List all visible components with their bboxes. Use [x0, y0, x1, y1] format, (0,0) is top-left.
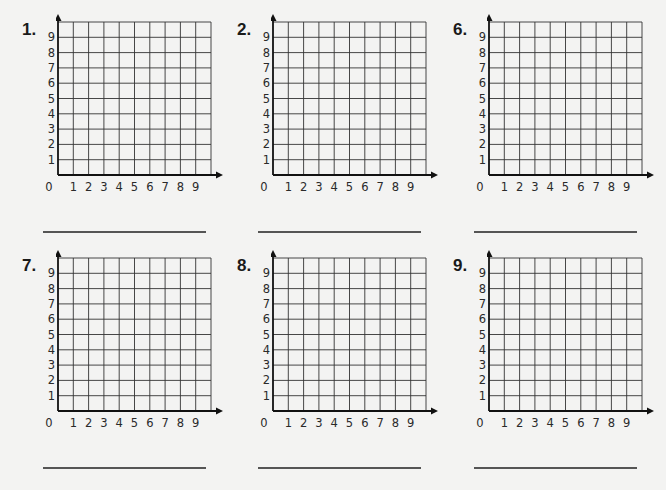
y-axis-label: 1: [43, 389, 55, 403]
coordinate-grid: [487, 250, 656, 415]
x-axis-label: 8: [389, 180, 401, 194]
x-axis-label: 3: [313, 416, 325, 430]
origin-label: 0: [474, 416, 486, 430]
y-axis-label: 7: [43, 297, 55, 311]
x-axis-label: 7: [159, 416, 171, 430]
x-axis-label: 2: [514, 180, 526, 194]
x-axis-label: 8: [605, 416, 617, 430]
y-axis-label: 4: [258, 343, 270, 357]
y-axis-label: 5: [258, 92, 270, 106]
y-axis-label: 5: [43, 328, 55, 342]
x-axis-label: 6: [359, 416, 371, 430]
y-axis-label: 3: [43, 122, 55, 136]
x-axis-label: 4: [328, 416, 340, 430]
graph-panel: 1.1234567890123456789: [0, 0, 222, 245]
y-axis-label: 3: [474, 122, 486, 136]
x-axis-label: 2: [83, 180, 95, 194]
x-axis-label: 7: [374, 416, 386, 430]
y-axis-label: 7: [258, 297, 270, 311]
y-axis-label: 7: [474, 297, 486, 311]
graph-panel: 9.1234567890123456789: [431, 240, 653, 485]
x-axis-label: 8: [389, 416, 401, 430]
problem-number: 6.: [453, 20, 467, 40]
x-axis-label: 3: [313, 180, 325, 194]
y-axis-label: 7: [43, 61, 55, 75]
x-axis-label: 1: [67, 180, 79, 194]
x-axis-label: 9: [405, 416, 417, 430]
y-axis-label: 9: [474, 266, 486, 280]
problem-number: 7.: [22, 256, 36, 276]
y-axis-label: 1: [474, 153, 486, 167]
x-axis-label: 1: [282, 416, 294, 430]
problem-number: 1.: [22, 20, 36, 40]
y-axis-label: 3: [43, 358, 55, 372]
y-axis-label: 6: [43, 312, 55, 326]
origin-label: 0: [43, 416, 55, 430]
coordinate-grid: [56, 250, 225, 415]
y-axis-label: 9: [43, 30, 55, 44]
y-axis-label: 4: [474, 343, 486, 357]
answer-line[interactable]: [474, 231, 637, 233]
x-axis-label: 2: [298, 180, 310, 194]
x-axis-label: 8: [174, 416, 186, 430]
x-axis-label: 9: [190, 416, 202, 430]
y-axis-label: 1: [474, 389, 486, 403]
y-axis-label: 9: [474, 30, 486, 44]
x-axis-label: 4: [328, 180, 340, 194]
x-axis-label: 4: [544, 416, 556, 430]
graph-panel: 7.1234567890123456789: [0, 240, 222, 485]
x-axis-label: 6: [144, 416, 156, 430]
graph-panel: 8.1234567890123456789: [215, 240, 437, 485]
x-axis-label: 1: [498, 416, 510, 430]
x-axis-label: 4: [113, 180, 125, 194]
x-axis-label: 7: [159, 180, 171, 194]
x-axis-label: 6: [359, 180, 371, 194]
graph-panel: 2.1234567890123456789: [215, 0, 437, 245]
y-axis-label: 1: [43, 153, 55, 167]
x-axis-label: 2: [298, 416, 310, 430]
y-axis-label: 9: [43, 266, 55, 280]
x-axis-label: 5: [344, 180, 356, 194]
answer-line[interactable]: [474, 467, 637, 469]
x-axis-label: 1: [282, 180, 294, 194]
answer-line[interactable]: [43, 467, 206, 469]
x-axis-label: 1: [498, 180, 510, 194]
x-axis-label: 9: [621, 180, 633, 194]
coordinate-grid: [56, 14, 225, 179]
problem-number: 9.: [453, 256, 467, 276]
answer-line[interactable]: [43, 231, 206, 233]
y-axis-label: 1: [258, 389, 270, 403]
coordinate-grid: [487, 14, 656, 179]
problem-number: 2.: [237, 20, 251, 40]
y-axis-label: 4: [474, 107, 486, 121]
y-axis-label: 5: [474, 92, 486, 106]
x-axis-label: 2: [83, 416, 95, 430]
y-axis-label: 8: [474, 282, 486, 296]
y-axis-label: 6: [474, 76, 486, 90]
answer-line[interactable]: [258, 231, 421, 233]
x-axis-label: 3: [529, 180, 541, 194]
origin-label: 0: [474, 180, 486, 194]
y-axis-label: 9: [258, 266, 270, 280]
problem-number: 8.: [237, 256, 251, 276]
x-axis-label: 4: [113, 416, 125, 430]
y-axis-label: 4: [43, 107, 55, 121]
x-axis-label: 3: [529, 416, 541, 430]
answer-line[interactable]: [258, 467, 421, 469]
y-axis-label: 7: [258, 61, 270, 75]
y-axis-label: 7: [474, 61, 486, 75]
y-axis-label: 1: [258, 153, 270, 167]
coordinate-grid: [271, 14, 440, 179]
y-axis-label: 6: [258, 312, 270, 326]
x-axis-label: 5: [129, 180, 141, 194]
y-axis-label: 9: [258, 30, 270, 44]
x-axis-label: 6: [575, 180, 587, 194]
y-axis-label: 8: [474, 46, 486, 60]
x-axis-label: 7: [590, 180, 602, 194]
x-axis-label: 8: [605, 180, 617, 194]
origin-label: 0: [43, 180, 55, 194]
x-axis-label: 9: [405, 180, 417, 194]
y-axis-label: 5: [474, 328, 486, 342]
x-axis-label: 9: [190, 180, 202, 194]
y-axis-label: 6: [43, 76, 55, 90]
